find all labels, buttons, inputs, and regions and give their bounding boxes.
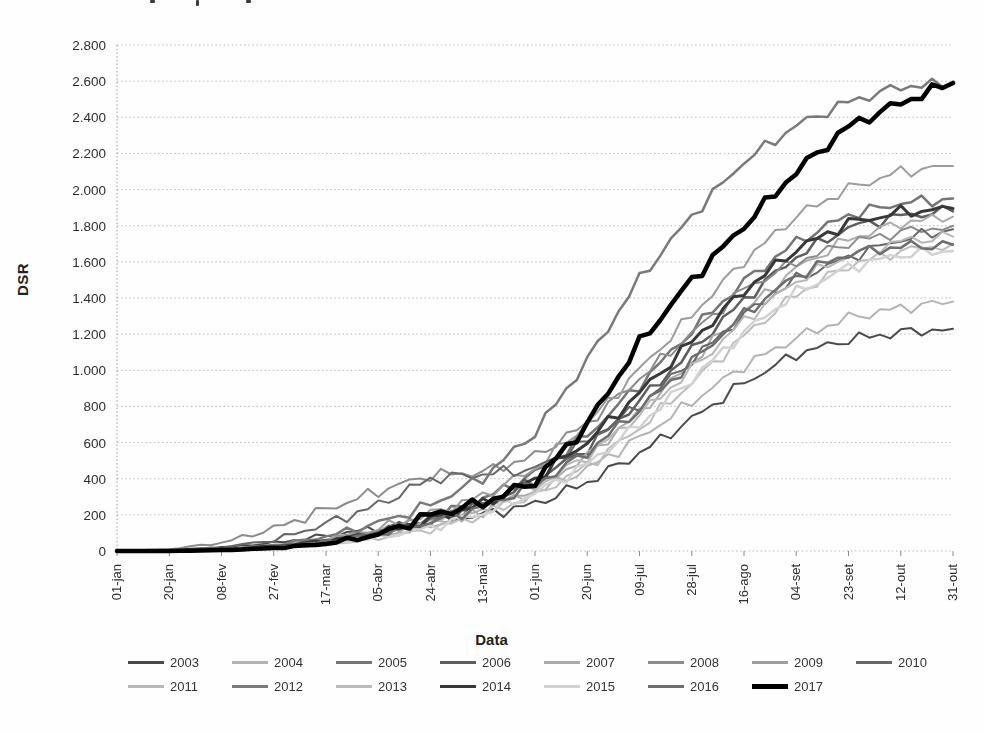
y-tick-label: 2.400 bbox=[72, 110, 106, 125]
x-axis-title: Data bbox=[0, 631, 983, 648]
legend-label: 2004 bbox=[274, 655, 303, 670]
x-tick-label: 12-out bbox=[893, 564, 908, 601]
series-line-2006 bbox=[117, 206, 953, 551]
series-line-2004 bbox=[117, 301, 953, 551]
x-tick-label: 13-mai bbox=[475, 564, 490, 604]
y-tick-label: 1.200 bbox=[72, 327, 106, 342]
y-tick-label: 1.800 bbox=[72, 219, 106, 234]
chart-canvas: 02004006008001.0001.2001.4001.6001.8002.… bbox=[0, 0, 983, 733]
legend-row: 2011201220132014201520162017 bbox=[128, 679, 968, 694]
y-tick-label: 800 bbox=[83, 399, 106, 414]
series-line-2011 bbox=[117, 232, 953, 551]
series-line-2008 bbox=[117, 226, 953, 551]
legend-label: 2005 bbox=[378, 655, 407, 670]
x-tick-label: 08-fev bbox=[214, 564, 229, 601]
legend-line-swatch bbox=[128, 685, 164, 688]
series-line-2016 bbox=[117, 241, 953, 551]
legend-label: 2015 bbox=[586, 679, 615, 694]
y-tick-label: 1.000 bbox=[72, 363, 106, 378]
y-tick-label: 0 bbox=[98, 544, 106, 559]
legend-line-swatch bbox=[648, 661, 684, 664]
legend-item-2016: 2016 bbox=[648, 679, 752, 694]
legend-item-2012: 2012 bbox=[232, 679, 336, 694]
legend-line-swatch bbox=[440, 661, 476, 664]
legend-label: 2003 bbox=[170, 655, 199, 670]
legend-line-swatch bbox=[544, 685, 580, 688]
legend-label: 2017 bbox=[794, 679, 823, 694]
x-tick-label: 09-jul bbox=[632, 564, 647, 596]
x-tick-label: 24-abr bbox=[423, 563, 438, 601]
x-tick-label: 01-jan bbox=[109, 564, 124, 600]
legend-line-swatch bbox=[440, 685, 476, 689]
legend-line-swatch bbox=[752, 684, 788, 690]
x-tick-label: 20-jan bbox=[161, 564, 176, 600]
legend-item-2009: 2009 bbox=[752, 655, 856, 670]
x-tick-label: 31-out bbox=[945, 564, 960, 601]
legend-label: 2008 bbox=[690, 655, 719, 670]
legend-label: 2012 bbox=[274, 679, 303, 694]
x-tick-label: 16-ago bbox=[736, 564, 751, 604]
legend-line-swatch bbox=[336, 661, 372, 664]
y-tick-label: 2.600 bbox=[72, 74, 106, 89]
x-tick-label: 17-mar bbox=[318, 563, 333, 605]
legend-item-2010: 2010 bbox=[856, 655, 960, 670]
x-tick-label: 27-fev bbox=[266, 564, 281, 601]
legend-line-swatch bbox=[128, 661, 164, 664]
chart: 02004006008001.0001.2001.4001.6001.8002.… bbox=[0, 0, 983, 733]
y-tick-label: 2.000 bbox=[72, 183, 106, 198]
legend-line-swatch bbox=[544, 661, 580, 664]
legend-item-2017: 2017 bbox=[752, 679, 856, 694]
legend-item-2013: 2013 bbox=[336, 679, 440, 694]
series-line-2014 bbox=[117, 206, 953, 551]
legend-item-2005: 2005 bbox=[336, 655, 440, 670]
series-line-2015 bbox=[117, 247, 953, 551]
y-tick-label: 2.800 bbox=[72, 38, 106, 53]
legend: 2003200420052006200720082009201020112012… bbox=[128, 655, 968, 694]
legend-label: 2011 bbox=[170, 679, 198, 694]
y-tick-label: 400 bbox=[83, 472, 106, 487]
legend-item-2015: 2015 bbox=[544, 679, 648, 694]
y-tick-label: 600 bbox=[83, 436, 106, 451]
x-tick-label: 01-jun bbox=[527, 564, 542, 600]
legend-line-swatch bbox=[856, 661, 892, 664]
legend-item-2004: 2004 bbox=[232, 655, 336, 670]
legend-item-2014: 2014 bbox=[440, 679, 544, 694]
legend-label: 2014 bbox=[482, 679, 511, 694]
legend-label: 2007 bbox=[586, 655, 615, 670]
legend-label: 2016 bbox=[690, 679, 719, 694]
legend-item-2006: 2006 bbox=[440, 655, 544, 670]
y-axis-title: DSR bbox=[14, 263, 31, 296]
legend-line-swatch bbox=[648, 685, 684, 688]
legend-label: 2009 bbox=[794, 655, 823, 670]
legend-item-2008: 2008 bbox=[648, 655, 752, 670]
x-tick-label: 23-set bbox=[841, 564, 856, 601]
legend-line-swatch bbox=[232, 685, 268, 688]
series-line-2005 bbox=[117, 196, 953, 551]
series-line-2003 bbox=[117, 328, 953, 551]
x-tick-label: 20-jun bbox=[579, 564, 594, 600]
legend-line-swatch bbox=[336, 685, 372, 688]
legend-line-swatch bbox=[752, 661, 788, 664]
legend-label: 2013 bbox=[378, 679, 407, 694]
y-tick-label: 1.400 bbox=[72, 291, 106, 306]
x-tick-label: 05-abr bbox=[370, 563, 385, 601]
legend-label: 2010 bbox=[898, 655, 927, 670]
legend-line-swatch bbox=[232, 661, 268, 664]
y-tick-label: 200 bbox=[83, 508, 106, 523]
legend-label: 2006 bbox=[482, 655, 511, 670]
x-tick-label: 04-set bbox=[788, 564, 803, 601]
legend-item-2003: 2003 bbox=[128, 655, 232, 670]
y-tick-label: 1.600 bbox=[72, 255, 106, 270]
legend-row: 20032004200520062007200820092010 bbox=[128, 655, 968, 670]
y-tick-label: 2.200 bbox=[72, 146, 106, 161]
legend-item-2011: 2011 bbox=[128, 679, 232, 694]
series-line-2013 bbox=[117, 244, 953, 551]
legend-item-2007: 2007 bbox=[544, 655, 648, 670]
x-tick-label: 28-jul bbox=[684, 564, 699, 596]
